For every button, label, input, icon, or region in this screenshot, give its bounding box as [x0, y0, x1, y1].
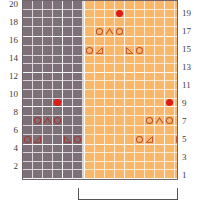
chart-cell — [53, 116, 63, 126]
chart-cell — [95, 116, 105, 126]
chart-cell — [95, 46, 105, 56]
row-label-right-2: 19 — [178, 9, 200, 18]
chart-cell — [165, 116, 175, 126]
chart-cell — [73, 46, 83, 56]
chart-cell — [95, 153, 105, 162]
chart-cell — [115, 37, 125, 46]
chart-cell — [105, 81, 115, 90]
chart-cell — [73, 145, 83, 154]
chart-cell — [105, 27, 115, 37]
chart-cell — [165, 126, 175, 135]
chart-cell — [105, 1, 115, 10]
chart-cell — [73, 18, 83, 27]
chart-grid — [23, 1, 177, 179]
chart-cell — [165, 37, 175, 46]
chart-cell — [73, 10, 83, 19]
knitting-chart: 2018161412108642 191715131197531 — [0, 0, 200, 204]
chart-cell — [135, 135, 145, 145]
chart-cell — [155, 37, 165, 46]
chart-cell — [23, 37, 33, 46]
chart-cell — [95, 107, 105, 116]
chart-cell — [43, 162, 53, 171]
chart-cell — [53, 135, 63, 145]
chart-cell — [23, 126, 33, 135]
chart-cell — [155, 107, 165, 116]
chart-cell — [63, 73, 73, 82]
chart-cell — [85, 126, 95, 135]
chart-cell — [95, 90, 105, 99]
chart-cell — [73, 73, 83, 82]
circle-icon — [135, 135, 144, 144]
triangle-left-icon — [125, 46, 134, 55]
chart-cell — [63, 46, 73, 56]
chart-cell — [105, 99, 115, 108]
chart-cell — [33, 18, 43, 27]
row-label-left-11: 10 — [0, 90, 22, 99]
circle-icon — [23, 135, 32, 144]
chart-cell — [115, 153, 125, 162]
chart-cell — [73, 99, 83, 108]
chart-cell — [105, 162, 115, 171]
chart-cell — [95, 10, 105, 19]
chart-cell — [125, 1, 135, 10]
chart-cell — [125, 90, 135, 99]
chart-cell — [155, 56, 165, 65]
chart-cell — [125, 37, 135, 46]
chart-cell — [73, 56, 83, 65]
chart-cell — [53, 99, 63, 108]
chart-cell — [63, 153, 73, 162]
chevron-up-icon — [155, 116, 164, 125]
chart-cell — [165, 99, 175, 108]
chart-cell — [85, 37, 95, 46]
chart-cell — [43, 145, 53, 154]
chart-cell — [165, 56, 175, 65]
circle-icon — [95, 27, 104, 36]
chart-cell — [115, 46, 125, 56]
chart-cell — [73, 27, 83, 37]
chart-cell — [115, 107, 125, 116]
chart-cell — [85, 81, 95, 90]
chart-cell — [73, 153, 83, 162]
chart-cell — [43, 107, 53, 116]
chart-cell — [135, 46, 145, 56]
chart-cell — [105, 116, 115, 126]
chart-cell — [135, 10, 145, 19]
chart-cell — [63, 1, 73, 10]
chart-cell — [155, 18, 165, 27]
chart-cell — [105, 64, 115, 73]
chart-cell — [125, 73, 135, 82]
chart-cell — [145, 162, 155, 171]
chart-cell — [33, 99, 43, 108]
chart-cell — [115, 27, 125, 37]
chart-cell — [135, 162, 145, 171]
chart-cell — [135, 153, 145, 162]
chart-cell — [95, 170, 105, 179]
chart-cell — [23, 81, 33, 90]
chart-cell — [53, 64, 63, 73]
chart-cell — [63, 90, 73, 99]
row-label-left-7: 14 — [0, 54, 22, 63]
chart-cell — [115, 56, 125, 65]
chart-cell — [105, 145, 115, 154]
chart-cell — [95, 1, 105, 10]
circle-icon — [85, 46, 94, 55]
chart-cell — [53, 153, 63, 162]
chart-cell — [23, 27, 33, 37]
chart-cell — [95, 27, 105, 37]
circle-icon — [145, 116, 154, 125]
row-label-right-12: 9 — [178, 99, 200, 108]
chart-cell — [73, 126, 83, 135]
chart-cell — [23, 99, 33, 108]
chart-cell — [155, 116, 165, 126]
chart-cell — [95, 162, 105, 171]
chart-cell — [145, 126, 155, 135]
chart-cell — [165, 46, 175, 56]
chart-cell — [33, 10, 43, 19]
chart-cell — [135, 18, 145, 27]
chart-cell — [135, 126, 145, 135]
circle-icon — [33, 116, 42, 125]
chart-cell — [43, 90, 53, 99]
chart-cell — [43, 18, 53, 27]
chart-cell — [33, 90, 43, 99]
chart-cell — [135, 56, 145, 65]
